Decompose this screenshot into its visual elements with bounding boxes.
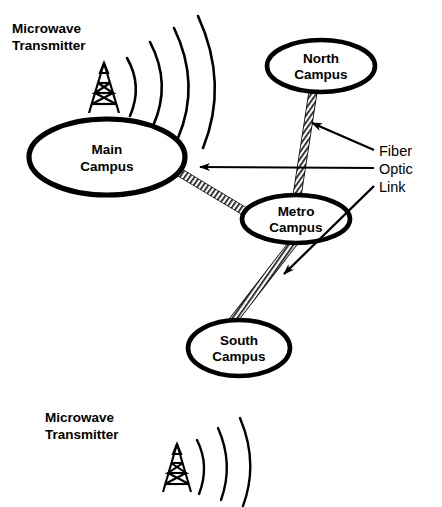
leader-to-main-metro — [200, 167, 374, 168]
transmitter-bottom-line2: Transmitter — [45, 427, 119, 442]
node-south-campus[interactable]: South Campus — [188, 320, 290, 376]
transmitter-bottom-line1: Microwave — [45, 410, 115, 425]
transmitter-top-line2: Transmitter — [12, 38, 86, 53]
node-ellipse — [29, 119, 185, 195]
node-label-line1: South — [220, 333, 258, 348]
node-main-campus[interactable]: Main Campus — [29, 119, 185, 195]
transmitter-top-line1: Microwave — [12, 21, 82, 36]
node-ellipse — [242, 195, 350, 243]
node-label-line2: Campus — [269, 220, 322, 235]
node-label-line1: Metro — [278, 204, 315, 219]
node-metro-campus[interactable]: Metro Campus — [242, 195, 350, 243]
fiber-optic-label-line2: Optic — [379, 161, 413, 177]
node-label-line1: North — [303, 51, 339, 66]
fiber-optic-label-line1: Fiber — [379, 143, 412, 159]
node-north-campus[interactable]: North Campus — [267, 40, 375, 92]
network-diagram-canvas: North Campus Main Campus Metro Campus So… — [0, 0, 442, 507]
diagram-svg: North Campus Main Campus Metro Campus So… — [0, 0, 442, 507]
node-ellipse — [267, 40, 375, 92]
node-ellipse — [188, 320, 290, 376]
node-label-line2: Campus — [212, 349, 265, 364]
node-label-line1: Main — [92, 142, 123, 157]
node-label-line2: Campus — [80, 159, 133, 174]
fiber-optic-label-line3: Link — [379, 179, 406, 195]
node-label-line2: Campus — [294, 67, 347, 82]
